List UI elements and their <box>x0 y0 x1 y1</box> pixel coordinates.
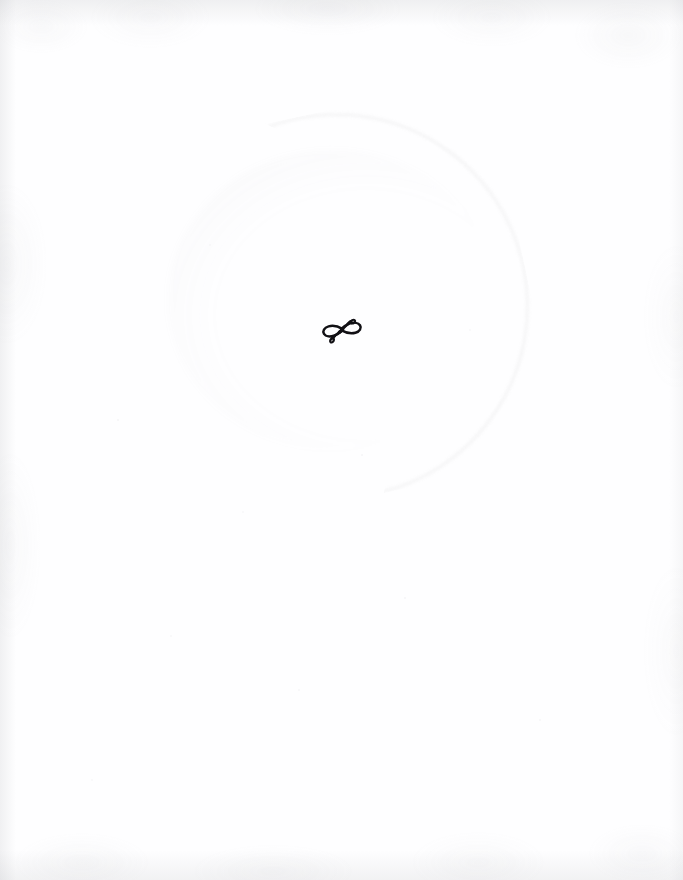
fleuron-ornament-icon <box>314 303 370 359</box>
ornament-container <box>0 303 683 359</box>
scanned-page <box>0 0 683 880</box>
paper-background <box>0 0 683 880</box>
